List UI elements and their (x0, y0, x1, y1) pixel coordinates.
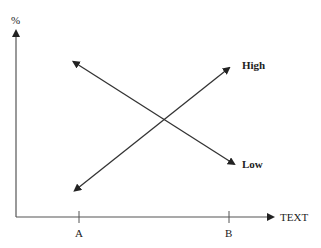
y-axis-label: % (11, 14, 20, 26)
x-axis-label: TEXT (280, 211, 308, 223)
tick-a-label: A (75, 227, 83, 239)
low-line (77, 64, 234, 164)
high-label: High (242, 59, 265, 71)
low-label: Low (242, 158, 263, 170)
diagram-canvas: % TEXT A B High Low (0, 0, 321, 248)
tick-b-label: B (225, 227, 232, 239)
high-line (78, 68, 229, 188)
